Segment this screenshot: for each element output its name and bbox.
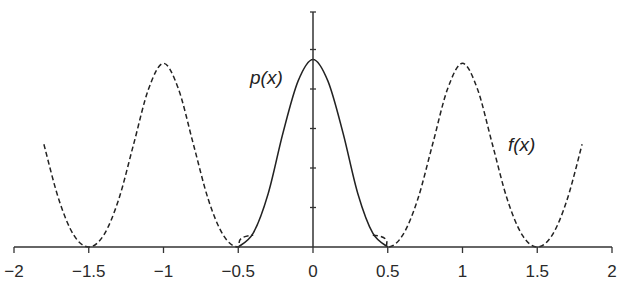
x-tick-label: 1.5 (525, 262, 549, 281)
curve-label-f: f(x) (508, 134, 535, 155)
curve-label-p: p(x) (249, 67, 283, 88)
x-tick-label: 0 (308, 262, 317, 281)
x-tick-label: −2 (4, 262, 23, 281)
x-tick-label: −0.5 (221, 262, 255, 281)
x-tick-label: 2 (607, 262, 616, 281)
x-tick-label: −1 (154, 262, 173, 281)
chart-canvas: −2−1.5−1−0.500.511.52 p(x) f(x) (0, 0, 623, 296)
axes-layer (14, 12, 612, 247)
curve-labels-group: p(x) f(x) (249, 67, 535, 155)
x-ticks-group: −2−1.5−1−0.500.511.52 (4, 247, 616, 281)
x-tick-label: 0.5 (376, 262, 400, 281)
x-tick-label: 1 (458, 262, 467, 281)
x-tick-label: −1.5 (72, 262, 106, 281)
